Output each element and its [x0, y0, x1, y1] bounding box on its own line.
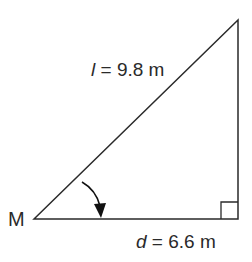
triangle	[34, 20, 238, 219]
angle-arc-arrow	[82, 182, 100, 206]
hypotenuse-value: = 9.8 m	[95, 59, 164, 80]
base-label: d = 6.6 m	[136, 231, 216, 252]
base-value: = 6.6 m	[147, 231, 216, 252]
arrowhead-icon	[94, 203, 106, 218]
hypotenuse-label: l = 9.8 m	[91, 59, 164, 80]
right-triangle-diagram: M l = 9.8 m d = 6.6 m	[0, 0, 252, 262]
right-angle-marker	[221, 202, 238, 219]
vertex-label-m: M	[8, 208, 25, 230]
